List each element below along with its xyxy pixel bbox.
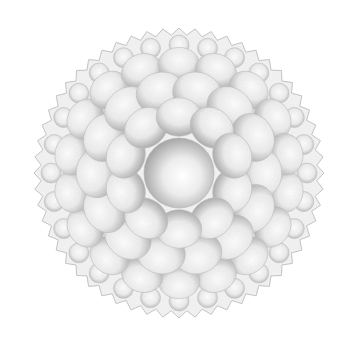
mandala-flower-image <box>0 0 357 345</box>
center-sphere <box>144 138 214 208</box>
flower-artwork <box>0 0 357 345</box>
